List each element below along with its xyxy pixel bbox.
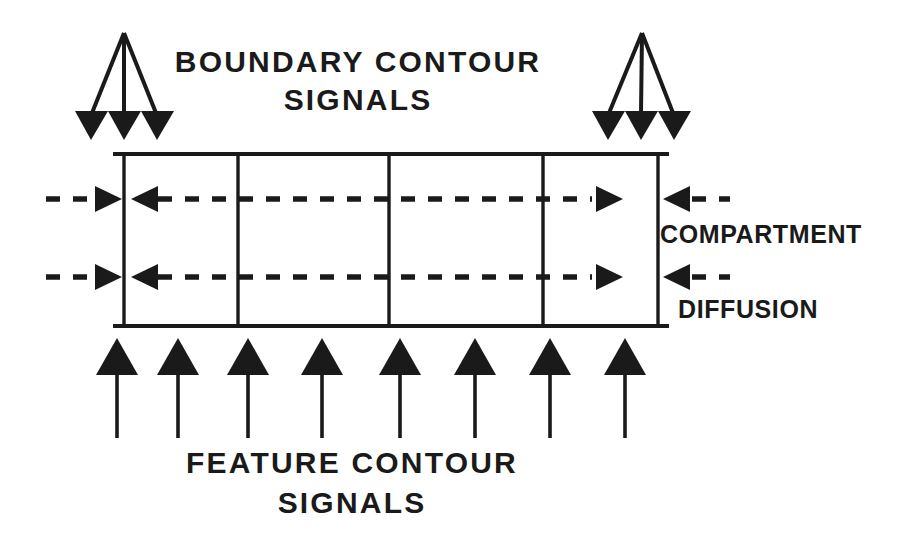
compartment-box: [113, 152, 669, 328]
feature-contour-arrows: [96, 338, 646, 438]
fan-ray-right-middle: [641, 33, 642, 113]
feature-contour-signals-title-line1: FEATURE CONTOUR: [186, 446, 518, 479]
boundary-contour-fan-right: [592, 33, 691, 140]
boundary-contour-fan-left: [75, 33, 174, 140]
feature-arrowhead-up-8: [604, 338, 646, 375]
arrowhead-right-inside-right-wall-lower: [596, 264, 623, 290]
fan-ray-right-outer: [609, 33, 642, 113]
feature-arrowhead-up-1: [96, 338, 138, 375]
feature-arrowhead-up-2: [157, 338, 199, 375]
feature-arrowhead-up-5: [379, 338, 421, 375]
arrowhead-right-into-left-wall-upper: [95, 186, 122, 212]
feature-arrowhead-up-7: [529, 338, 571, 375]
arrowhead-down-right-3: [658, 111, 691, 140]
arrowhead-left-outside-right-wall-lower: [663, 264, 690, 290]
feature-contour-signals-title-line2: SIGNALS: [278, 486, 427, 519]
arrowhead-left-outside-right-wall-upper: [663, 186, 690, 212]
feature-arrowhead-up-4: [301, 338, 343, 375]
arrowhead-down-left-1: [75, 111, 108, 140]
fan-ray-left-outer: [92, 33, 124, 113]
diagram-canvas: BOUNDARY CONTOUR SIGNALS: [0, 0, 902, 553]
compartment-label: COMPARTMENT: [660, 220, 862, 248]
feature-arrowhead-up-3: [227, 338, 269, 375]
arrowhead-right-inside-right-wall-upper: [596, 186, 623, 212]
boundary-contour-signals-title-line1: BOUNDARY CONTOUR: [175, 45, 541, 78]
fan-ray-left-inner: [124, 33, 156, 113]
arrowhead-down-right-1: [592, 111, 625, 140]
feature-arrowhead-up-6: [454, 338, 496, 375]
arrowhead-right-into-left-wall-lower: [95, 264, 122, 290]
arrowhead-down-left-2: [108, 111, 141, 140]
arrowhead-left-inside-left-wall-upper: [131, 186, 158, 212]
arrowhead-left-inside-left-wall-lower: [131, 264, 158, 290]
diffusion-label: DIFFUSION: [678, 295, 818, 323]
fan-ray-right-inner: [642, 33, 673, 113]
arrowhead-down-left-3: [141, 111, 174, 140]
boundary-contour-diagram: BOUNDARY CONTOUR SIGNALS: [0, 0, 902, 553]
arrowhead-down-right-2: [625, 111, 658, 140]
boundary-contour-signals-title-line2: SIGNALS: [284, 83, 433, 116]
